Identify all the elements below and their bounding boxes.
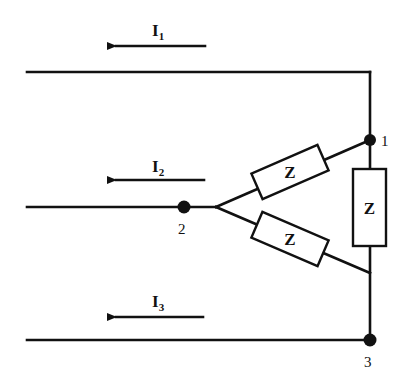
impedance-label: Z bbox=[284, 163, 295, 182]
circuit-diagram: Z Z Z 1 2 3 I1 I2 I3 bbox=[0, 0, 406, 380]
current-1-label: I1 bbox=[152, 21, 164, 42]
impedance-label: Z bbox=[364, 199, 375, 218]
current-2-label: I2 bbox=[152, 157, 165, 178]
node-2-dot bbox=[178, 201, 191, 214]
node-3-label: 3 bbox=[364, 354, 372, 370]
node-1-dot bbox=[364, 134, 376, 146]
current-3-label: I3 bbox=[152, 292, 165, 313]
impedance-z-23: Z bbox=[251, 212, 328, 266]
impedance-label: Z bbox=[284, 230, 295, 249]
node-2-label: 2 bbox=[178, 221, 186, 237]
impedance-z-13: Z bbox=[353, 169, 386, 246]
impedance-z-12: Z bbox=[251, 145, 328, 199]
node-1-label: 1 bbox=[381, 133, 389, 149]
node-3-dot bbox=[364, 334, 377, 347]
